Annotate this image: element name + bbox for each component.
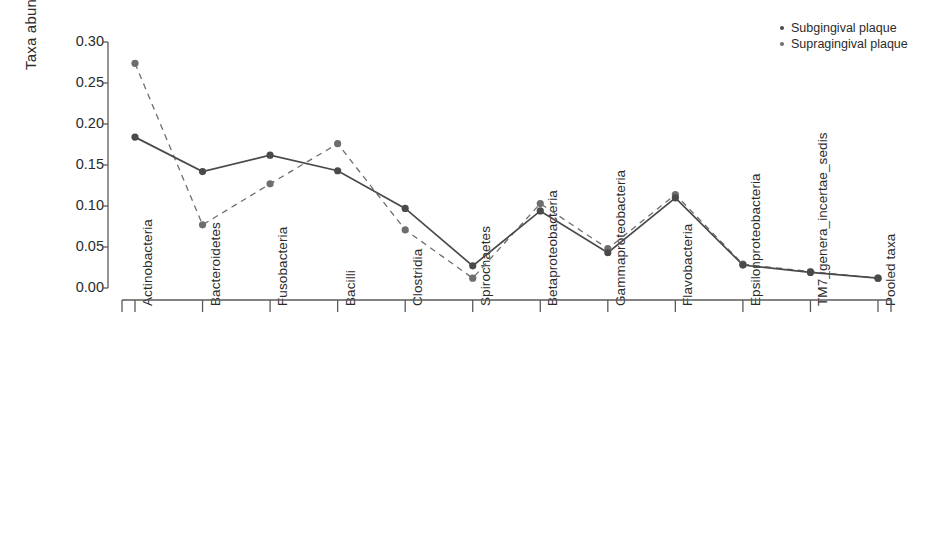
- data-point: [266, 180, 273, 187]
- data-point: [334, 167, 341, 174]
- data-point: [537, 207, 544, 214]
- data-point: [604, 249, 611, 256]
- data-point: [402, 226, 409, 233]
- chart-legend: Subgingival plaqueSupragingival plaque: [780, 20, 908, 52]
- legend-marker-dot-icon: [780, 42, 784, 46]
- data-point: [469, 275, 476, 282]
- data-point: [537, 200, 544, 207]
- legend-item: Supragingival plaque: [780, 36, 908, 52]
- legend-item: Subgingival plaque: [780, 20, 908, 36]
- data-point: [266, 152, 273, 159]
- plot-area: [0, 0, 930, 533]
- series-line-2: [135, 63, 878, 278]
- legend-label: Supragingival plaque: [791, 36, 908, 52]
- series-line-1: [135, 137, 878, 278]
- data-point: [739, 261, 746, 268]
- data-point: [334, 140, 341, 147]
- data-point: [807, 269, 814, 276]
- data-point: [131, 134, 138, 141]
- data-point: [131, 60, 138, 67]
- data-point: [874, 275, 881, 282]
- legend-label: Subgingival plaque: [791, 20, 897, 36]
- legend-marker-dot-icon: [780, 26, 784, 30]
- data-point: [199, 221, 206, 228]
- data-point: [672, 194, 679, 201]
- data-point: [199, 168, 206, 175]
- data-point: [469, 262, 476, 269]
- data-point: [402, 205, 409, 212]
- chart-figure: Taxa abundance 0.000.050.100.150.200.250…: [0, 0, 930, 533]
